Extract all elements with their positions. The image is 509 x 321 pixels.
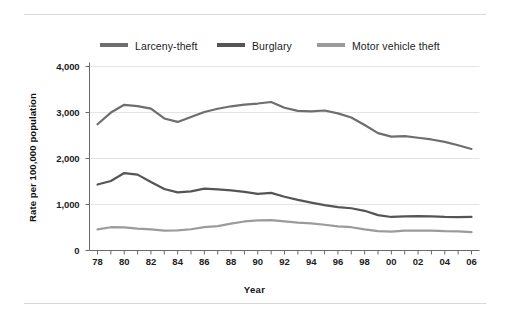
x-tick-label: 96: [328, 256, 348, 267]
x-tick-label: 06: [461, 256, 481, 267]
series-line-motor-vehicle-theft: [98, 220, 472, 232]
x-tick-label: 94: [301, 256, 321, 267]
chart-figure: Larceny-theft Burglary Motor vehicle the…: [0, 0, 509, 321]
x-tick-label: 02: [408, 256, 428, 267]
x-tick-label: 82: [141, 256, 161, 267]
x-axis-title: Year: [0, 284, 509, 295]
y-tick-label: 0: [38, 245, 80, 256]
x-tick-label: 88: [221, 256, 241, 267]
x-tick-label: 00: [381, 256, 401, 267]
y-tick-label: 4,000: [38, 61, 80, 72]
axis-ticks: [86, 67, 472, 255]
gridlines: [90, 67, 480, 205]
x-tick-label: 84: [168, 256, 188, 267]
x-tick-label: 78: [88, 256, 108, 267]
series-line-larceny-theft: [98, 102, 472, 149]
y-tick-label: 3,000: [38, 107, 80, 118]
y-axis-title: Rate per 100,000 population: [27, 63, 38, 253]
x-tick-label: 86: [194, 256, 214, 267]
x-tick-label: 04: [435, 256, 455, 267]
x-tick-label: 80: [114, 256, 134, 267]
x-tick-label: 92: [275, 256, 295, 267]
y-tick-label: 2,000: [38, 153, 80, 164]
x-tick-label: 98: [355, 256, 375, 267]
data-series: [98, 102, 472, 232]
x-tick-label: 90: [248, 256, 268, 267]
series-line-burglary: [98, 173, 472, 217]
y-tick-label: 1,000: [38, 199, 80, 210]
